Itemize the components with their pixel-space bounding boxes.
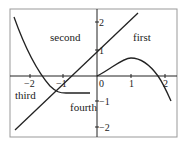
x-tick-label: 2 bbox=[163, 78, 168, 89]
label-second: second bbox=[50, 31, 81, 43]
x-tick-label: 1 bbox=[129, 78, 134, 89]
plot-frame bbox=[10, 9, 177, 137]
y-tick-label: −1 bbox=[99, 96, 110, 107]
label-fourth: fourth bbox=[70, 101, 97, 113]
chart: −2 −1 0 1 2 2 1 −1 −2 second first third… bbox=[0, 0, 181, 144]
cubic-series bbox=[97, 58, 171, 101]
label-third: third bbox=[15, 89, 36, 101]
y-tick-label: −2 bbox=[99, 122, 110, 133]
x-tick-label: −1 bbox=[56, 78, 67, 89]
x-tick-label: 0 bbox=[99, 78, 104, 89]
y-tick-label: 2 bbox=[99, 17, 104, 28]
y-tick-label: 1 bbox=[99, 45, 104, 56]
x-tick-label: −2 bbox=[24, 78, 35, 89]
label-first: first bbox=[133, 31, 151, 43]
